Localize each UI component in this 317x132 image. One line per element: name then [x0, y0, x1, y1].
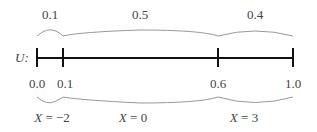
- bottom-brace-3: [218, 97, 293, 103]
- bottom-label-2: X = 0: [118, 110, 147, 125]
- top-label-1: 0.1: [42, 7, 58, 22]
- tick-label-0-1: 0.1: [57, 76, 73, 91]
- top-brace-2: [63, 30, 218, 36]
- number-line-diagram: 0.1 0.5 0.4 U: 0.0 0.1 0.6 1.0 X = −2 X …: [0, 0, 317, 132]
- tick-label-0-0: 0.0: [29, 76, 45, 91]
- top-label-2: 0.5: [132, 7, 148, 22]
- top-label-3: 0.4: [247, 7, 264, 22]
- variable-label: U:: [15, 50, 29, 65]
- bottom-label-3: X = 3: [229, 110, 258, 125]
- bottom-brace-2: [63, 97, 218, 103]
- top-brace-1: [37, 30, 63, 36]
- tick-label-0-6: 0.6: [210, 76, 227, 91]
- diagram-svg: 0.1 0.5 0.4 U: 0.0 0.1 0.6 1.0 X = −2 X …: [0, 0, 317, 132]
- tick-label-1-0: 1.0: [285, 76, 301, 91]
- bottom-label-1: X = −2: [33, 110, 70, 125]
- bottom-brace-1: [37, 97, 63, 103]
- top-brace-3: [218, 31, 293, 36]
